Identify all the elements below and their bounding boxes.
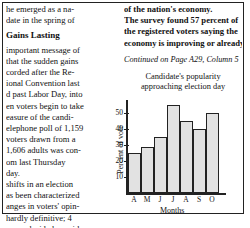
- text-line: of the nation's economy.: [124, 4, 242, 15]
- text-line: anges in voters' opin-: [6, 201, 124, 212]
- bar: [206, 113, 219, 193]
- section-heading: Gains Lasting: [6, 30, 124, 41]
- text-line: important message of: [6, 45, 124, 56]
- text-line: elephone poll of 1,159: [6, 123, 124, 134]
- text-line: ional Convention last: [6, 78, 124, 89]
- chart-title: Candidate's popularity approaching elect…: [124, 72, 242, 92]
- text-line: the registered voters saying the: [124, 26, 242, 37]
- text-line: as been characterized: [6, 190, 124, 201]
- x-tick-label: A: [180, 195, 192, 204]
- text-line: shifts in an election: [6, 179, 124, 190]
- bar: [193, 129, 206, 193]
- x-tick-label: J: [167, 195, 179, 204]
- y-tick-label: 20: [111, 156, 123, 165]
- bar: [167, 105, 180, 193]
- bar: [141, 147, 154, 193]
- text-line: are undecided or said: [6, 224, 124, 228]
- text-line: The survey found 57 percent of: [124, 15, 242, 26]
- y-tick-label: 10: [111, 172, 123, 181]
- continued-note: Continued on Page A29, Column 5: [124, 54, 242, 65]
- y-tick: [124, 129, 129, 130]
- text-line: 1,606 adults was con-: [6, 145, 124, 156]
- text-line: d past Labor Day, into: [6, 89, 124, 100]
- text-line: corded after the Re-: [6, 67, 124, 78]
- text-line: date in the spring of: [6, 15, 124, 26]
- chart-title-line: Candidate's popularity: [124, 72, 242, 82]
- bar: [128, 153, 141, 193]
- x-tick-label: A: [128, 195, 140, 204]
- text-line: day.: [6, 168, 124, 179]
- text-line: voters drawn from a: [6, 134, 124, 145]
- x-tick-label: S: [193, 195, 205, 204]
- article-right-column: of the nation's economy. The survey foun…: [124, 4, 242, 65]
- y-tick: [124, 113, 129, 114]
- text-line: economy is improving or already: [124, 38, 242, 49]
- x-tick-label: M: [141, 195, 153, 204]
- bar: [180, 121, 193, 193]
- x-tick-label: J: [154, 195, 166, 204]
- y-tick: [124, 145, 129, 146]
- chart-title-line: approaching election day: [124, 82, 242, 92]
- y-tick-label: 30: [111, 140, 123, 149]
- text-line: he emerged as a na-: [6, 4, 124, 15]
- text-line: en voters begin to take: [6, 101, 124, 112]
- bar: [154, 137, 167, 193]
- y-tick-label: 50: [111, 108, 123, 117]
- x-tick-label: O: [206, 195, 218, 204]
- article-left-column: he emerged as a na- date in the spring o…: [6, 4, 124, 228]
- text-line: om last Thursday: [6, 157, 124, 168]
- x-axis-label: Months: [160, 206, 184, 215]
- text-line: that the sudden gains: [6, 56, 124, 67]
- y-tick-label: 40: [111, 124, 123, 133]
- text-line: easure of the candi-: [6, 112, 124, 123]
- text-line: hardly definitive; 4: [6, 213, 124, 224]
